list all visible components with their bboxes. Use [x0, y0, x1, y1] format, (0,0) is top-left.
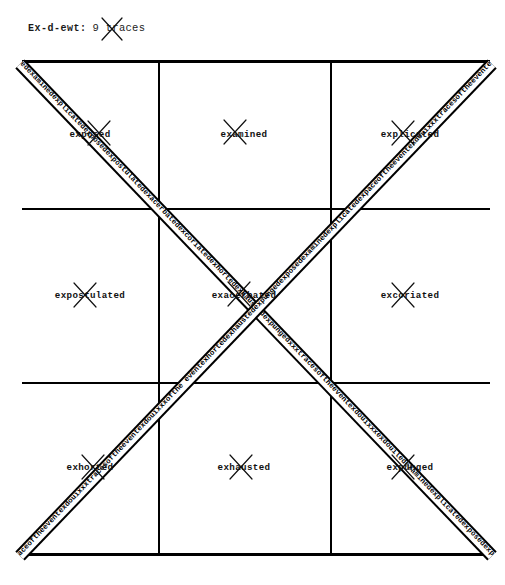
cell-word: explicated	[381, 129, 440, 140]
grid-cell-r1c1[interactable]: exposed	[22, 60, 158, 208]
cell-word: exacerbated	[212, 290, 277, 301]
grid-cell-r1c3[interactable]: explicated	[330, 60, 490, 208]
grid-cell-r3c3[interactable]: expunged	[330, 382, 490, 553]
grid-cell-r1c2[interactable]: examined	[158, 60, 330, 208]
cell-word: examined	[221, 129, 268, 140]
cell-word: expunged	[387, 462, 434, 473]
diagram-canvas: Ex-d-ewt: 9 traces edexaminedexplicatede…	[0, 0, 505, 585]
grid-cell-r2c2[interactable]: exacerbated	[158, 208, 330, 382]
cell-word: expostulated	[55, 290, 125, 301]
cell-word: exposed	[69, 129, 110, 140]
grid-cell-r3c1[interactable]: exhorted	[22, 382, 158, 553]
cell-word: exhorted	[67, 462, 114, 473]
grid-line-bottom	[22, 553, 490, 556]
grid-cell-r2c1[interactable]: expostulated	[22, 208, 158, 382]
grid-cell-r3c2[interactable]: exhausted	[158, 382, 330, 553]
cell-word: excoriated	[381, 290, 440, 301]
cell-word: exhausted	[218, 462, 271, 473]
grid-cell-r2c3[interactable]: excoriated	[330, 208, 490, 382]
